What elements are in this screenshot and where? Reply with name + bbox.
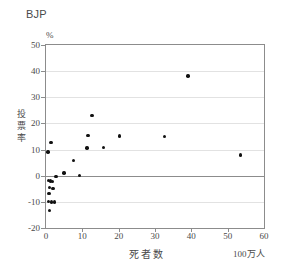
y-axis-tick <box>41 45 46 46</box>
data-point <box>46 150 49 153</box>
y-axis-tick-label: 30 <box>31 93 40 102</box>
x-axis-unit-label: 100万人 <box>233 249 265 260</box>
y-axis-unit-label: % <box>46 31 54 40</box>
data-point <box>72 159 75 162</box>
y-axis-tick <box>41 97 46 98</box>
data-point <box>49 141 52 144</box>
y-axis-tick <box>41 71 46 72</box>
x-axis-tick-label: 40 <box>187 232 196 241</box>
data-point <box>47 192 50 195</box>
y-axis-tick <box>41 202 46 203</box>
x-axis-title: 死者数 <box>129 249 165 260</box>
y-axis-tick-label: 10 <box>31 146 40 155</box>
x-axis-tick-label: 50 <box>223 232 232 241</box>
scatter-chart-figure: BJP % 投 票 率 -20-100102030405001020304050… <box>0 0 293 269</box>
gridline-horizontal <box>46 71 264 72</box>
y-axis-tick-label: -20 <box>28 224 40 233</box>
data-point <box>239 153 242 156</box>
data-point <box>54 175 57 178</box>
y-axis-tick-label: -10 <box>28 198 40 207</box>
gridline-horizontal <box>46 202 264 203</box>
gridline-horizontal <box>46 123 264 124</box>
y-axis-tick-label: 0 <box>36 172 41 181</box>
x-axis-tick-label: 30 <box>151 232 160 241</box>
y-axis-tick <box>41 228 46 229</box>
data-point <box>85 146 88 149</box>
y-axis-tick-label: 20 <box>31 119 40 128</box>
x-axis-tick-label: 0 <box>44 232 49 241</box>
gridline-horizontal <box>46 97 264 98</box>
data-point <box>86 134 89 137</box>
chart-title: BJP <box>26 8 47 20</box>
data-point <box>163 135 166 138</box>
data-point <box>186 74 189 77</box>
y-axis-title-char-3: 率 <box>14 132 28 144</box>
data-point <box>53 200 56 203</box>
y-axis-title-char-1: 投 <box>14 108 28 120</box>
y-axis-tick-label: 50 <box>31 41 40 50</box>
y-axis-tick <box>41 176 46 177</box>
x-axis-tick-label: 20 <box>114 232 123 241</box>
x-axis-tick-label: 10 <box>78 232 87 241</box>
plot-area: -20-10010203040500102030405060 <box>45 44 265 229</box>
data-point <box>51 187 54 190</box>
y-axis-title-char-2: 票 <box>14 120 28 132</box>
y-axis-tick-label: 40 <box>31 67 40 76</box>
gridline-horizontal <box>46 150 264 151</box>
data-point <box>48 209 51 212</box>
data-point <box>51 180 54 183</box>
y-axis-title: 投 票 率 <box>14 108 28 144</box>
data-point <box>62 171 65 174</box>
data-point <box>118 134 121 137</box>
x-axis-tick-label: 60 <box>260 232 269 241</box>
y-axis-tick <box>41 150 46 151</box>
y-axis-tick <box>41 123 46 124</box>
data-point <box>90 114 93 117</box>
